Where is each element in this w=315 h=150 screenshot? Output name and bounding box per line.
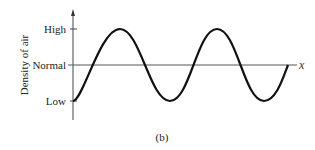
level-label-low: Low xyxy=(46,95,66,107)
y-axis-arrow-icon xyxy=(71,9,75,16)
x-axis-label: x xyxy=(298,58,305,72)
caption: (b) xyxy=(156,131,169,144)
level-label-normal: Normal xyxy=(32,59,66,71)
density-wave-diagram: High Normal Low Density of air x (b) xyxy=(0,0,315,150)
y-axis-label: Density of air xyxy=(18,34,30,95)
level-label-high: High xyxy=(44,23,67,35)
